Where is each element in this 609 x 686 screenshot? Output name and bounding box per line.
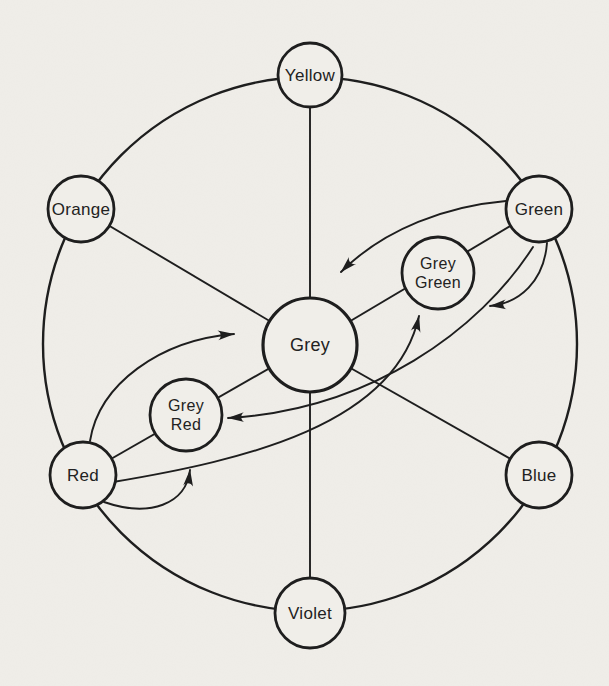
- node-blue-label: Blue: [521, 466, 556, 485]
- color-circle-diagram: YellowOrangeGreenRedBlueVioletGreyGreyGr…: [0, 0, 609, 686]
- node-orange: Orange: [48, 176, 114, 242]
- node-red: Red: [50, 442, 116, 508]
- node-grey-red: GreyRed: [150, 379, 222, 451]
- node-green: Green: [506, 176, 572, 242]
- node-yellow: Yellow: [278, 43, 342, 107]
- node-violet-label: Violet: [288, 604, 332, 623]
- node-orange-label: Orange: [52, 200, 111, 219]
- node-red-label: Red: [67, 466, 99, 485]
- scanned-figure-page: YellowOrangeGreenRedBlueVioletGreyGreyGr…: [0, 0, 609, 686]
- node-grey-red-circle: [150, 379, 222, 451]
- node-yellow-label: Yellow: [285, 66, 336, 85]
- node-grey: Grey: [263, 298, 357, 392]
- node-grey-green: GreyGreen: [402, 237, 474, 309]
- node-green-label: Green: [515, 200, 564, 219]
- color-circle-diagram-container: YellowOrangeGreenRedBlueVioletGreyGreyGr…: [0, 0, 609, 686]
- node-grey-green-circle: [402, 237, 474, 309]
- node-blue: Blue: [506, 442, 572, 508]
- node-grey-label: Grey: [290, 335, 330, 355]
- node-violet: Violet: [275, 578, 345, 648]
